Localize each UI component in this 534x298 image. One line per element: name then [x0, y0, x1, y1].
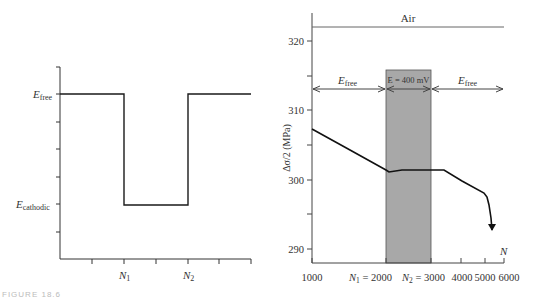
- right-chart: Air 320 310 300 290 Δσ/2 (MPa): [281, 12, 520, 285]
- cathodic-shaded-region: [386, 70, 431, 263]
- n2-label: N2: [182, 269, 194, 283]
- efree-left-label: Efree: [337, 74, 358, 88]
- x-axis-letter: N: [499, 245, 508, 257]
- potential-step-line: [60, 94, 251, 205]
- cathodic-potential-label: E = 400 mV: [388, 75, 431, 85]
- efree-right-label: Efree: [457, 74, 478, 88]
- n1-value-label: N1 = 2000: [348, 272, 392, 285]
- right-x-tick-labels: 1000 N1 = 2000 N2 = 3000 4000 5000 6000: [302, 272, 520, 285]
- left-x-ticks: [92, 259, 251, 264]
- n1-label: N1: [118, 269, 130, 283]
- svg-text:310: 310: [288, 105, 304, 116]
- y-axis-title: Δσ/2 (MPa): [281, 124, 293, 172]
- svg-text:1000: 1000: [302, 272, 323, 283]
- left-chart: Efree Ecathodic N1 N2: [15, 67, 251, 283]
- svg-text:5000: 5000: [475, 272, 496, 283]
- svg-text:300: 300: [288, 175, 304, 186]
- air-label: Air: [401, 12, 416, 24]
- svg-text:6000: 6000: [499, 272, 520, 283]
- ecathodic-label: Ecathodic: [15, 198, 50, 212]
- right-y-ticks: [307, 41, 312, 249]
- efree-label: Efree: [32, 88, 53, 102]
- n2-value-label: N2 = 3000: [401, 272, 445, 285]
- svg-text:4000: 4000: [452, 272, 473, 283]
- svg-text:290: 290: [288, 244, 304, 255]
- svg-text:320: 320: [288, 36, 304, 47]
- figure-canvas: Efree Ecathodic N1 N2 Air 320 310 300 29…: [0, 0, 534, 298]
- figure-caption: FIGURE 18.6: [2, 290, 61, 298]
- left-y-ticks: [56, 67, 60, 232]
